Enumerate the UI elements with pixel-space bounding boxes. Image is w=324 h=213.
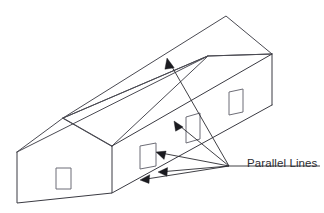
diagram-background <box>0 0 324 213</box>
parallel-lines-label: Parallel Lines <box>247 157 318 169</box>
diagram-canvas: Parallel Lines <box>0 0 324 213</box>
perspective-diagram: Parallel Lines <box>0 0 324 213</box>
